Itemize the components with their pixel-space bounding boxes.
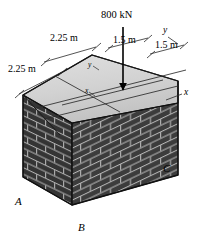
load-label: 800 kN [101, 10, 132, 21]
corner-label-c: C [163, 163, 170, 174]
brick-wall-diagram [0, 0, 199, 241]
dimension-label-right-outer: 1.5 m [155, 40, 178, 50]
dimension-label-left-lower: 2.25 m [8, 64, 36, 74]
dimension-label-left-upper: 2.25 m [50, 33, 78, 43]
corner-label-a: A [15, 196, 22, 207]
axis-label-x-edge: x [184, 88, 188, 98]
dimension-label-right-inner: 1.5 m [113, 35, 136, 45]
axis-label-y-edge: y [163, 26, 167, 36]
axis-label-y-centroid: y [88, 61, 91, 69]
corner-label-b: B [78, 222, 85, 233]
axis-label-x-centroid: x [85, 87, 88, 95]
figure-container: 800 kN 2.25 m 2.25 m 1.5 m 1.5 m y x y x… [0, 0, 199, 241]
